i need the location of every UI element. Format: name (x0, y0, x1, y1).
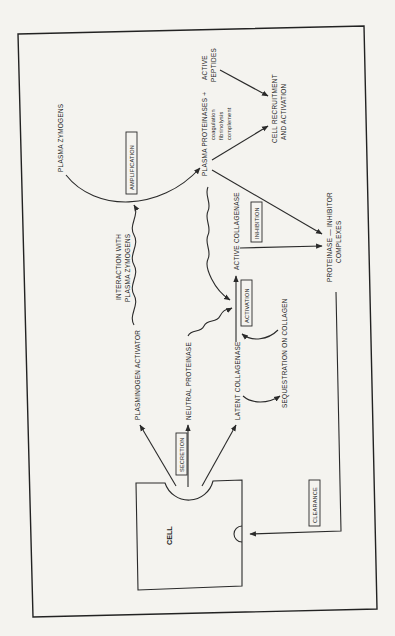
proteinase-type-complement: complement (226, 107, 232, 140)
cell-shape (136, 480, 242, 590)
label-clearance: CLEARANCE (312, 487, 318, 523)
curve-sequestration-out (243, 396, 280, 402)
node-plasma-proteinases: PLASMA PROTEINASES + (201, 92, 208, 176)
wavy-arrow-plasminogen-to-amplification (132, 205, 135, 325)
arrow-peptides-to-recruitment (220, 70, 268, 96)
arrow-clearance-to-cell (250, 292, 341, 534)
cell-receptor-notch (234, 526, 242, 542)
label-inhibition: INHIBITION (254, 207, 260, 239)
node-cell-recruitment-line1: CELL RECRUITMENT (271, 74, 278, 143)
arrow-active-collagenase-to-complexes (240, 246, 322, 248)
label-activation: ACTIVATION (244, 288, 250, 323)
node-plasma-zymogens: PLASMA ZYMOGENS (57, 104, 64, 172)
arrow-to-latent-collagenase (202, 425, 236, 486)
wavy-arrow-neutral-proteinase-to-activation (188, 308, 232, 336)
node-neutral-proteinase: NEUTRAL PROTEINASE (185, 342, 192, 420)
node-active-peptides-line2: PEPTIDES (210, 48, 217, 82)
node-latent-collagenase: LATENT COLLAGENASE (234, 341, 241, 420)
node-sequestration: SEQUESTRATION ON COLLAGEN (281, 298, 289, 408)
curve-sequestration-return (242, 330, 278, 339)
node-interaction-line1: INTERACTION WITH (115, 234, 122, 300)
node-cell-recruitment-line2: AND ACTIVATION (280, 83, 287, 140)
proteinase-type-fibrinolysis: fibrinolysis (218, 111, 224, 140)
outer-frame (18, 26, 377, 617)
arrow-to-plasminogen-activator (140, 425, 176, 486)
wavy-arrow-proteinases-to-activation (207, 187, 230, 300)
proteinase-type-coagulation: coagulation (210, 109, 216, 140)
node-complexes-line1: PROTEINASE — INHIBITOR (326, 192, 333, 282)
node-active-peptides-line1: ACTIVE (201, 55, 208, 80)
label-secretion: SECRETION (179, 438, 185, 472)
node-plasminogen-activator: PLASMINOGEN ACTIVATOR (134, 330, 141, 420)
arrow-proteinases-to-complexes (212, 170, 322, 234)
label-amplification: AMPLIFICATION (129, 145, 135, 190)
proteinase-pathway-diagram: CELL SECRETION PLASMINOGEN ACTIVATOR NEU… (0, 0, 395, 636)
node-complexes-line2: COMPLEXES (335, 221, 342, 263)
node-interaction-line2: PLASMA ZYMOGENS (124, 234, 131, 302)
node-cell: CELL (165, 526, 174, 545)
node-active-collagenase: ACTIVE COLLAGENASE (233, 192, 240, 270)
